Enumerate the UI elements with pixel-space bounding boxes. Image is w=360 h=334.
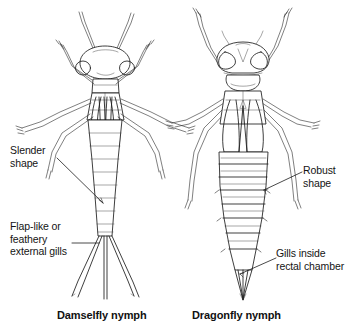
damselfly-abdomen — [88, 120, 122, 236]
label-external-gills: Flap-like or feathery external gills — [10, 220, 67, 258]
figure-illustration: Slender shape Flap-like or feathery exte… — [0, 0, 360, 334]
caption-dragonfly-nymph: Dragonfly nymph — [192, 309, 281, 321]
label-slender-shape: Slender shape — [10, 144, 46, 169]
dragonfly-abdomen — [215, 152, 270, 270]
label-robust-shape: Robust shape — [303, 164, 336, 189]
damselfly-caudal-gills — [72, 236, 139, 299]
dragonfly-anal-pyramid — [235, 270, 252, 300]
label-rectal-gills: Gills inside rectal chamber — [276, 247, 344, 272]
dragonfly-head — [217, 42, 269, 75]
dragonfly-labial-mask — [226, 75, 260, 91]
damselfly-thorax — [87, 93, 124, 120]
caption-damselfly-nymph: Damselfly nymph — [57, 309, 147, 321]
damselfly-labium — [92, 79, 119, 93]
damselfly-head — [76, 46, 135, 79]
